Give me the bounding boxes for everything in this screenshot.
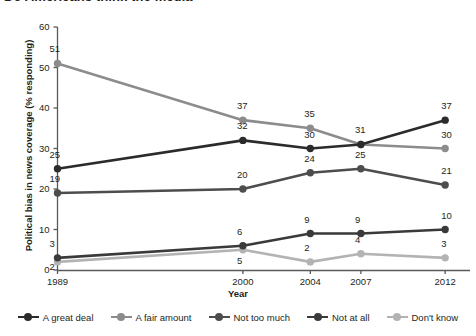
data-point-label: 37 (237, 100, 248, 111)
data-point-label: 19 (50, 173, 61, 184)
chart-legend: A great dealA fair amountNot too muchNot… (0, 306, 476, 328)
legend-label: Not too much (234, 312, 291, 323)
y-tick-label: 60 (24, 21, 50, 32)
data-point-label: 37 (441, 100, 452, 111)
legend-item[interactable]: A fair amount (111, 312, 192, 323)
legend-item[interactable]: A great deal (18, 312, 94, 323)
x-tick-label: 1989 (35, 276, 81, 287)
legend-label: Not at all (332, 312, 370, 323)
legend-item[interactable]: Not at all (307, 312, 370, 323)
data-point-marker (357, 141, 364, 148)
data-point-marker (357, 250, 364, 257)
legend-label: A great deal (43, 312, 94, 323)
data-point-label: 24 (304, 153, 315, 164)
data-point-marker (307, 230, 314, 237)
data-point-marker (441, 181, 448, 188)
data-point-label: 5 (237, 255, 242, 266)
y-tick-label: 30 (24, 143, 50, 154)
y-tick-label: 0 (24, 264, 50, 275)
data-point-label: 30 (304, 129, 315, 140)
legend-marker-icon (18, 313, 39, 322)
data-point-label: 51 (50, 43, 61, 54)
y-tick-label: 50 (24, 62, 50, 73)
data-point-label: 2 (50, 261, 55, 272)
x-axis-title: Year (0, 288, 476, 299)
data-point-marker (357, 165, 364, 172)
x-tick-label: 2004 (287, 276, 333, 287)
x-tick-label: 2007 (338, 276, 384, 287)
data-point-label: 4 (355, 234, 360, 245)
data-point-marker (54, 254, 61, 261)
data-point-marker (307, 169, 314, 176)
line-chart-figure: Do Americans think the media Political b… (0, 0, 476, 336)
data-point-label: 25 (355, 149, 366, 160)
y-tick-label: 20 (24, 183, 50, 194)
series-line (58, 230, 446, 258)
series-line (58, 169, 446, 193)
legend-item[interactable]: Not too much (209, 312, 291, 323)
data-point-marker (441, 226, 448, 233)
data-point-label: 9 (355, 214, 360, 225)
data-point-marker (54, 60, 61, 67)
x-tick-label: 2012 (422, 276, 468, 287)
axis-lines (58, 27, 471, 271)
data-point-label: 2 (304, 242, 309, 253)
legend-marker-icon (307, 313, 328, 322)
data-point-marker (307, 145, 314, 152)
data-point-marker (54, 189, 61, 196)
series-layer (54, 60, 449, 266)
data-point-marker (441, 145, 448, 152)
series-line (58, 250, 446, 262)
tick-marks (54, 27, 446, 274)
y-tick-label: 10 (24, 224, 50, 235)
data-point-label: 6 (237, 226, 242, 237)
data-point-label: 3 (441, 238, 446, 249)
data-point-label: 10 (441, 210, 452, 221)
y-tick-label: 40 (24, 102, 50, 113)
data-point-label: 31 (355, 124, 366, 135)
data-point-label: 35 (304, 108, 315, 119)
legend-item[interactable]: Don't know (387, 312, 459, 323)
legend-marker-icon (387, 313, 408, 322)
data-point-label: 20 (237, 169, 248, 180)
data-point-marker (441, 254, 448, 261)
data-point-marker (239, 185, 246, 192)
data-point-label: 21 (441, 165, 452, 176)
legend-label: A fair amount (136, 312, 192, 323)
data-point-marker (441, 116, 448, 123)
data-point-label: 3 (50, 238, 55, 249)
data-point-marker (239, 137, 246, 144)
legend-marker-icon (209, 313, 230, 322)
data-point-marker (54, 165, 61, 172)
data-point-marker (239, 242, 246, 249)
data-point-marker (307, 258, 314, 265)
legend-label: Don't know (412, 312, 459, 323)
data-point-label: 25 (50, 149, 61, 160)
data-point-label: 32 (237, 120, 248, 131)
legend-marker-icon (111, 313, 132, 322)
data-point-label: 30 (441, 129, 452, 140)
x-tick-label: 2000 (220, 276, 266, 287)
data-point-label: 9 (304, 214, 309, 225)
